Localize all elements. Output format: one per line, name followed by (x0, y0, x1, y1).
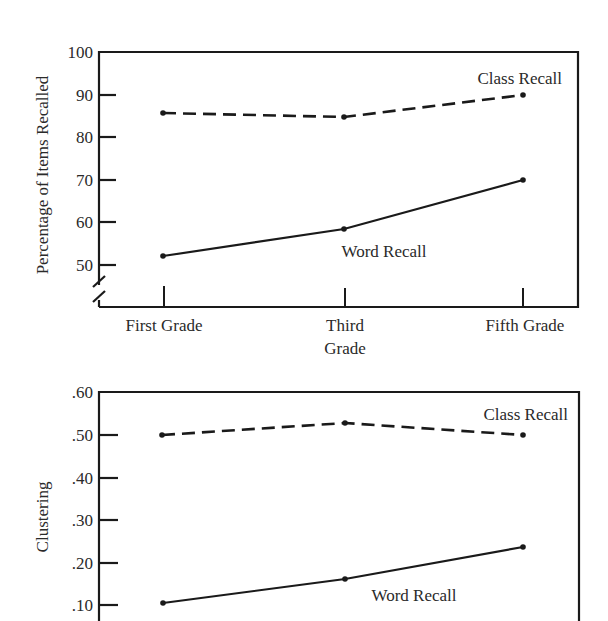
top-chart-frame (99, 52, 578, 307)
y-tick-label: .40 (72, 469, 93, 488)
x-label-grade: Grade (324, 339, 366, 358)
y-axis-label: Percentage of Items Recalled (33, 75, 52, 274)
data-point (160, 110, 166, 116)
series-class-recall-line (162, 423, 523, 435)
data-point (341, 226, 347, 232)
top-y-ticks (99, 95, 116, 265)
data-point (342, 576, 348, 582)
y-axis-label: Clustering (33, 481, 52, 552)
bottom-y-ticks (99, 435, 118, 605)
data-point (520, 432, 526, 438)
top-chart: 100 90 80 70 60 50 Percentage of Items R… (33, 43, 578, 358)
y-tick-label: 100 (68, 43, 94, 62)
series-word-recall-line (163, 547, 523, 603)
data-point (520, 544, 526, 550)
y-tick-label: .10 (72, 596, 93, 615)
y-tick-label: .60 (72, 383, 93, 402)
y-tick-label: 90 (76, 86, 93, 105)
y-tick-label: 70 (76, 171, 93, 190)
series-class-recall-line (163, 95, 523, 117)
data-point (341, 114, 347, 120)
y-tick-label: .30 (72, 511, 93, 530)
y-tick-label: .50 (72, 426, 93, 445)
data-point (520, 92, 526, 98)
x-label-third: Third (326, 316, 364, 335)
x-label-first-grade: First Grade (126, 316, 203, 335)
data-point (520, 177, 526, 183)
annotation-class-recall: Class Recall (477, 69, 562, 88)
bottom-chart: .60 .50 .40 .30 .20 .10 Clustering Class… (33, 383, 579, 621)
annotation-class-recall: Class Recall (483, 405, 568, 424)
data-point (160, 600, 166, 606)
data-point (342, 420, 348, 426)
annotation-word-recall: Word Recall (341, 242, 426, 261)
data-point (159, 432, 165, 438)
top-x-ticks (164, 286, 523, 307)
x-label-fifth-grade: Fifth Grade (486, 316, 565, 335)
y-tick-label: .20 (72, 554, 93, 573)
bottom-chart-frame (99, 392, 579, 621)
y-tick-label: 50 (76, 256, 93, 275)
y-tick-label: 80 (76, 128, 93, 147)
y-tick-label: 60 (76, 213, 93, 232)
data-point (160, 253, 166, 259)
annotation-word-recall: Word Recall (371, 586, 456, 605)
figure: 100 90 80 70 60 50 Percentage of Items R… (0, 0, 608, 621)
